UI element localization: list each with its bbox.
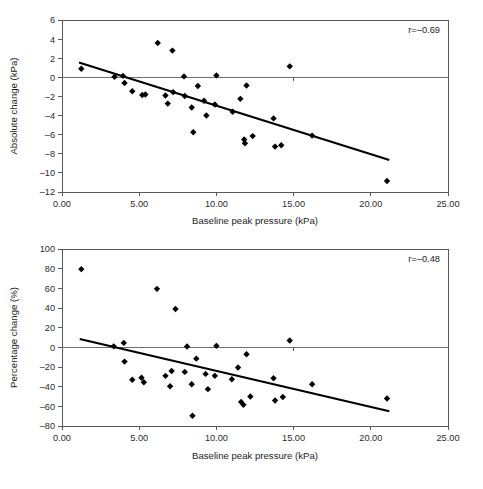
x-tick-label: 5.00	[130, 433, 148, 443]
data-point-marker	[121, 80, 127, 86]
y-tick-label: –80	[40, 421, 55, 431]
y-axis: 100806040200–20–40–60–80	[40, 244, 62, 431]
x-axis-title: Baseline peak pressure (kPa)	[192, 215, 318, 226]
data-point-marker	[195, 83, 201, 89]
data-point-marker	[165, 100, 171, 106]
data-point-series	[78, 266, 390, 419]
y-tick-label: –60	[40, 402, 55, 412]
y-tick-label: –20	[40, 362, 55, 372]
data-point-marker	[203, 112, 209, 118]
data-point-marker	[270, 375, 276, 381]
data-point-marker	[188, 104, 194, 110]
data-point-marker	[384, 178, 390, 184]
data-point-marker	[184, 343, 190, 349]
data-point-marker	[172, 306, 178, 312]
x-tick-label: 0.00	[53, 199, 71, 209]
x-axis-title: Baseline peak pressure (kPa)	[192, 450, 318, 461]
data-point-marker	[309, 132, 315, 138]
y-tick-label: 0	[50, 73, 55, 83]
plot-frame	[62, 249, 448, 426]
data-point-marker	[168, 368, 174, 374]
x-tick-label: 25.00	[437, 433, 460, 443]
data-point-marker	[162, 373, 168, 379]
chart-svg-absolute-change: 6420–2–4–6–8–10–120.005.0010.0015.0020.0…	[0, 0, 483, 240]
data-point-marker	[169, 47, 175, 53]
data-point-marker	[121, 358, 127, 364]
data-point-marker	[278, 142, 284, 148]
data-point-marker	[182, 93, 188, 99]
data-point-marker	[205, 386, 211, 392]
y-tick-label: –8	[45, 149, 55, 159]
data-point-marker	[272, 143, 278, 149]
y-tick-label: 60	[45, 284, 55, 294]
data-point-marker	[181, 73, 187, 79]
data-point-marker	[78, 66, 84, 72]
data-point-marker	[193, 355, 199, 361]
plot-frame	[62, 20, 448, 192]
data-point-marker	[212, 373, 218, 379]
y-axis-title: Percentage change (%)	[8, 287, 19, 388]
data-point-marker	[229, 376, 235, 382]
scatter-plot-figure: 6420–2–4–6–8–10–120.005.0010.0015.0020.0…	[0, 0, 483, 489]
data-point-marker	[309, 381, 315, 387]
x-axis: 0.005.0010.0015.0020.0025.00	[53, 192, 459, 209]
data-point-marker	[249, 133, 255, 139]
data-point-marker	[162, 92, 168, 98]
data-point-marker	[272, 397, 278, 403]
data-point-marker	[78, 266, 84, 272]
data-point-marker	[190, 129, 196, 135]
correlation-annotation: r=–0.69	[408, 25, 440, 35]
chart-panel-percentage-change: 100806040200–20–40–60–800.005.0010.0015.…	[0, 240, 483, 489]
data-point-marker	[243, 351, 249, 357]
data-point-marker	[121, 340, 127, 346]
data-point-marker	[155, 40, 161, 46]
data-point-marker	[111, 343, 117, 349]
data-point-marker	[287, 63, 293, 69]
y-tick-label: 40	[45, 303, 55, 313]
data-point-marker	[170, 89, 176, 95]
x-tick-label: 20.00	[359, 199, 382, 209]
data-point-marker	[235, 364, 241, 370]
y-axis-title: Absolute change (kPa)	[8, 57, 19, 154]
chart-svg-percentage-change: 100806040200–20–40–60–800.005.0010.0015.…	[0, 240, 483, 489]
y-tick-label: 4	[50, 35, 55, 45]
x-tick-label: 20.00	[359, 433, 382, 443]
data-point-marker	[202, 371, 208, 377]
data-point-series	[78, 40, 390, 184]
data-point-marker	[270, 115, 276, 121]
y-tick-label: 2	[50, 54, 55, 64]
y-tick-label: –2	[45, 92, 55, 102]
data-point-marker	[188, 381, 194, 387]
y-tick-label: 20	[45, 323, 55, 333]
data-point-marker	[280, 394, 286, 400]
data-point-marker	[243, 82, 249, 88]
x-axis: 0.005.0010.0015.0020.0025.00	[53, 426, 459, 443]
data-point-marker	[154, 286, 160, 292]
y-tick-label: 80	[45, 264, 55, 274]
y-axis: 6420–2–4–6–8–10–12	[40, 15, 62, 197]
y-tick-label: –40	[40, 382, 55, 392]
x-tick-label: 15.00	[282, 433, 305, 443]
x-tick-label: 10.00	[205, 433, 228, 443]
chart-panel-absolute-change: 6420–2–4–6–8–10–120.005.0010.0015.0020.0…	[0, 0, 483, 240]
data-point-marker	[189, 412, 195, 418]
y-tick-label: –4	[45, 111, 55, 121]
data-point-marker	[129, 88, 135, 94]
data-point-marker	[129, 377, 135, 383]
x-tick-label: 0.00	[53, 433, 71, 443]
correlation-annotation: r=–0.48	[408, 254, 440, 264]
y-tick-label: –12	[40, 187, 55, 197]
y-tick-label: –10	[40, 168, 55, 178]
data-point-marker	[247, 393, 253, 399]
x-tick-label: 15.00	[282, 199, 305, 209]
data-point-marker	[167, 383, 173, 389]
y-tick-label: 6	[50, 15, 55, 25]
data-point-marker	[287, 337, 293, 343]
data-point-marker	[182, 369, 188, 375]
data-point-marker	[237, 96, 243, 102]
data-point-marker	[213, 343, 219, 349]
data-point-marker	[384, 395, 390, 401]
y-tick-label: 0	[50, 343, 55, 353]
x-tick-label: 25.00	[437, 199, 460, 209]
x-tick-label: 5.00	[130, 199, 148, 209]
